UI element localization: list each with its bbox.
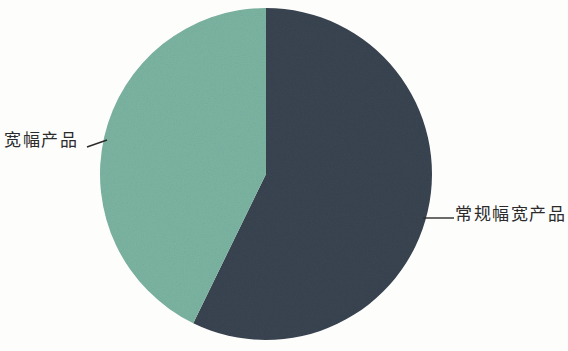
pie-chart-graphic [0, 0, 568, 351]
pie-chart-screenshot: 宽幅产品 常规幅宽产品 [0, 0, 568, 351]
pie-label-regular-width-product: 常规幅宽产品 [455, 205, 566, 225]
pie-label-wide-product: 宽幅产品 [4, 131, 78, 151]
